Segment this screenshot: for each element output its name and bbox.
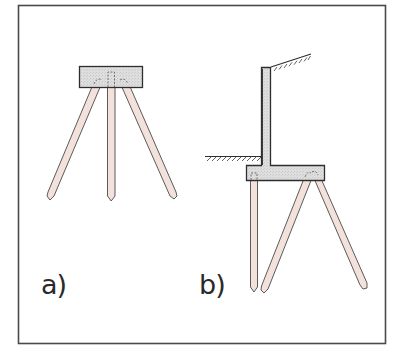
raked-pile-right [121, 82, 177, 199]
vertical-pile-toe [251, 176, 258, 292]
panel-b-retaining-wall [205, 54, 367, 293]
retaining-wall-concrete [247, 68, 325, 181]
ground-surface-retained-slope [271, 54, 311, 71]
pile-cap [80, 67, 143, 88]
raked-pile-left [47, 82, 101, 200]
panel-b-label: b) [199, 271, 225, 298]
pile-foundation-diagram [0, 0, 403, 355]
panel-a-pile-group [47, 67, 177, 202]
ground-surface-front [205, 157, 261, 162]
panel-a-label: a) [41, 271, 66, 298]
raked-pile-heel-front [261, 176, 312, 293]
vertical-pile-center [108, 80, 116, 201]
raked-pile-heel-back [313, 174, 367, 289]
